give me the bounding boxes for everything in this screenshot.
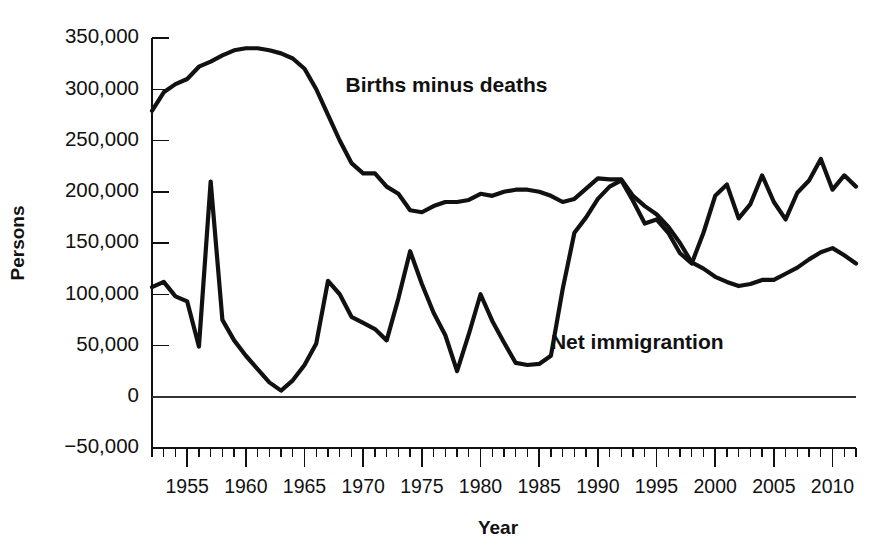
y-tick-label: 150,000: [65, 229, 139, 252]
x-tick-label: 1995: [635, 475, 679, 497]
x-axis-title: Year: [478, 517, 519, 538]
x-axis-major-ticks: [187, 448, 832, 467]
x-axis-tick-labels: 1955196019651970197519801985199019952000…: [166, 475, 855, 497]
x-tick-label: 1965: [283, 475, 327, 497]
series-annotation-births-minus-deaths: Births minus deaths: [346, 73, 548, 96]
y-tick-label: 50,000: [76, 332, 139, 355]
y-tick-label: 0: [128, 383, 139, 406]
chart-container: 350,000300,000250,000200,000150,000100,0…: [0, 0, 893, 547]
y-tick-label: 100,000: [65, 281, 139, 304]
x-tick-label: 1975: [400, 475, 444, 497]
x-tick-label: 1990: [576, 475, 620, 497]
y-tick-label: 200,000: [65, 178, 139, 201]
x-tick-label: 2000: [694, 475, 738, 497]
y-axis-tick-labels: 350,000300,000250,000200,000150,000100,0…: [64, 24, 139, 457]
x-tick-label: 1970: [342, 475, 386, 497]
y-tick-label: 250,000: [65, 127, 139, 150]
y-tick-label: 350,000: [65, 24, 139, 47]
series-annotation-net-immigration: Net immigrantion: [551, 330, 724, 353]
x-tick-label: 1985: [518, 475, 562, 497]
y-axis-title: Persons: [7, 206, 28, 281]
x-axis-minor-ticks: [152, 448, 856, 457]
x-tick-label: 1955: [166, 475, 210, 497]
x-tick-label: 2005: [752, 475, 796, 497]
line-chart: 350,000300,000250,000200,000150,000100,0…: [0, 0, 893, 547]
y-tick-label: −50,000: [64, 434, 139, 457]
y-tick-label: 300,000: [65, 76, 139, 99]
x-tick-label: 2010: [811, 475, 855, 497]
x-tick-label: 1980: [459, 475, 503, 497]
x-tick-label: 1960: [224, 475, 268, 497]
